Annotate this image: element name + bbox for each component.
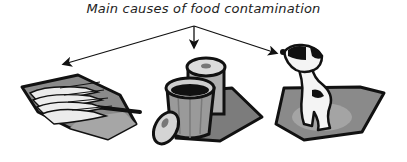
trash-can-icon (148, 58, 262, 148)
arrow-to-fish (64, 26, 194, 64)
diagram-canvas (0, 0, 407, 162)
fish-on-tray-icon (22, 75, 140, 139)
arrows (64, 26, 276, 64)
dog-icon (276, 45, 384, 140)
arrow-to-dog (194, 26, 276, 53)
